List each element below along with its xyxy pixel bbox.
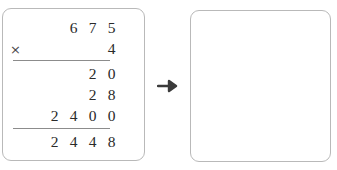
arrow-right-icon (155, 76, 181, 96)
multiplier-row: × 4 (11, 38, 121, 59)
multiplier-digit-ones: 4 (102, 41, 121, 57)
multiplicand-digit-tens: 7 (83, 20, 102, 36)
partial3-digit-hundreds: 4 (64, 108, 83, 124)
operation-rule-top (13, 60, 110, 61)
total-digit-thousands: 2 (45, 134, 64, 150)
multiplicand-digit-hundreds: 6 (64, 20, 83, 36)
partial-product-row-1: 2 0 (11, 63, 121, 84)
worked-example-panel: 6 7 5 × 4 2 0 (2, 8, 145, 161)
partial3-digit-thousands: 2 (45, 108, 64, 124)
partial1-digit-ones: 0 (102, 66, 121, 82)
partial1-digit-tens: 2 (83, 66, 102, 82)
partial2-digit-ones: 8 (102, 87, 121, 103)
partial-product-row-3: 2 4 0 0 (11, 105, 121, 126)
multiplicand-row: 6 7 5 (11, 17, 121, 38)
partial-product-row-2: 2 8 (11, 84, 121, 105)
total-digit-hundreds: 4 (64, 134, 83, 150)
long-multiplication-problem: 6 7 5 × 4 2 0 (11, 17, 121, 152)
worksheet-canvas: 6 7 5 × 4 2 0 (0, 0, 337, 170)
multiplicand-digit-ones: 5 (102, 20, 121, 36)
total-digit-tens: 4 (83, 134, 102, 150)
partial3-digit-ones: 0 (102, 108, 121, 124)
multiplication-operator-icon: × (10, 41, 21, 56)
partial2-digit-tens: 2 (83, 87, 102, 103)
total-row: 2 4 4 8 (11, 131, 121, 152)
operation-rule-bottom (13, 128, 110, 129)
total-digit-ones: 8 (102, 134, 121, 150)
partial3-digit-tens: 0 (83, 108, 102, 124)
blank-answer-panel[interactable] (190, 10, 331, 162)
